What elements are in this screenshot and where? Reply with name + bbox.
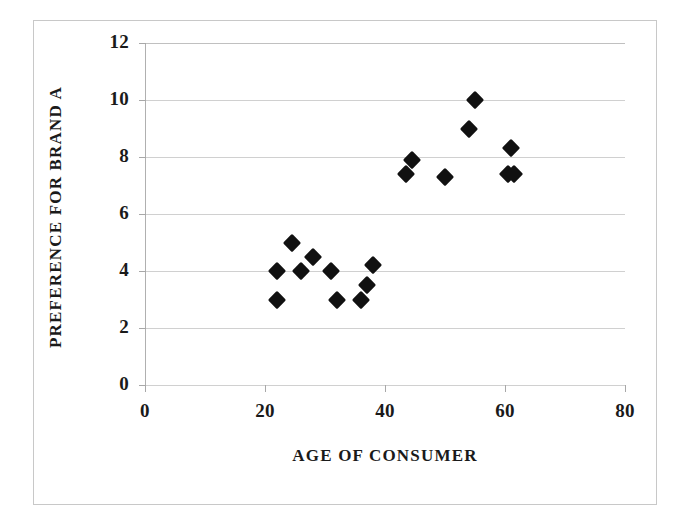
x-tick-label-0: 0 — [120, 400, 170, 422]
x-axis-title: AGE OF CONSUMER — [145, 446, 625, 466]
y-tick-label-4: 4 — [95, 259, 129, 281]
plot-area — [145, 43, 625, 385]
x-tick-mark-20 — [265, 385, 266, 392]
x-tick-label-60: 60 — [480, 400, 530, 422]
y-axis-title: PREFERENCE FOR BRAND A — [46, 62, 66, 372]
data-point — [268, 262, 286, 280]
y-tick-label-0: 0 — [95, 373, 129, 395]
data-point — [292, 262, 310, 280]
y-tick-label-2: 2 — [95, 316, 129, 338]
x-tick-label-40: 40 — [360, 400, 410, 422]
data-point — [322, 262, 340, 280]
x-tick-mark-0 — [145, 385, 146, 392]
y-tick-label-10: 10 — [95, 88, 129, 110]
data-point — [502, 139, 520, 157]
scatter-chart: 024681012 020406080 AGE OF CONSUMER PREF… — [0, 0, 689, 531]
data-point — [268, 290, 286, 308]
data-point — [283, 233, 301, 251]
y-tick-label-6: 6 — [95, 202, 129, 224]
data-point — [328, 290, 346, 308]
x-tick-mark-80 — [625, 385, 626, 392]
x-tick-label-20: 20 — [240, 400, 290, 422]
x-tick-mark-40 — [385, 385, 386, 392]
x-tick-mark-60 — [505, 385, 506, 392]
data-point — [460, 119, 478, 137]
data-point — [466, 91, 484, 109]
y-tick-label-8: 8 — [95, 145, 129, 167]
data-point — [364, 256, 382, 274]
x-tick-label-80: 80 — [600, 400, 650, 422]
y-tick-label-12: 12 — [95, 31, 129, 53]
data-point — [436, 168, 454, 186]
data-point — [304, 248, 322, 266]
